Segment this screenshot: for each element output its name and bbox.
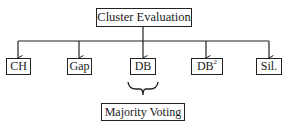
metric-box-db: DB xyxy=(130,58,156,75)
metric-box-sil: Sil. xyxy=(256,58,282,75)
metric-label: DB xyxy=(197,59,214,73)
majority-voting-box: Majority Voting xyxy=(101,103,185,121)
metric-label: DB xyxy=(135,59,152,73)
metric-box-gap: Gap xyxy=(67,58,92,75)
majority-voting-label: Majority Voting xyxy=(105,105,182,119)
curly-brace-icon xyxy=(128,82,158,95)
cluster-evaluation-box: Cluster Evaluation xyxy=(96,8,192,27)
metric-label: Gap xyxy=(70,59,90,73)
metric-superscript: 2 xyxy=(214,58,218,66)
cluster-evaluation-label: Cluster Evaluation xyxy=(97,10,190,24)
metric-box-ch: CH xyxy=(6,58,31,75)
metric-label: Sil. xyxy=(261,59,277,73)
metric-box-db2: DB2 xyxy=(191,58,223,75)
metric-label: CH xyxy=(10,59,27,73)
